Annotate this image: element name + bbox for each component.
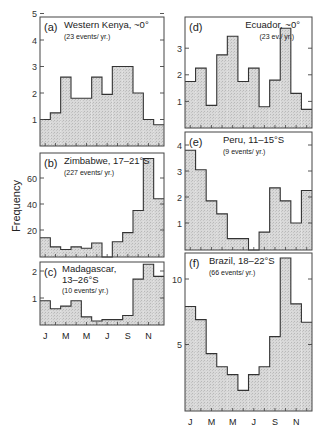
y-tick-label: 2 (32, 89, 37, 99)
month-label: S (272, 417, 278, 427)
bar (280, 28, 291, 128)
y-tick-label: 10 (172, 275, 182, 285)
y-axis-label: Frequency (10, 176, 22, 236)
bar (217, 55, 228, 128)
bar (301, 322, 312, 411)
month-label: J (105, 331, 110, 341)
month-label: J (43, 331, 48, 341)
bar (185, 81, 196, 128)
bar (280, 258, 291, 411)
bar (259, 367, 270, 411)
bar (112, 67, 122, 147)
panel-label: (b) (44, 157, 57, 169)
bar (291, 93, 302, 128)
panel-subtitle: (227 events/ yr.) (64, 169, 114, 177)
month-label: M (62, 331, 70, 341)
bar (280, 201, 291, 250)
bar (249, 375, 260, 411)
bar (227, 36, 238, 128)
bar (206, 354, 217, 411)
y-tick-label: 60 (27, 174, 37, 184)
y-tick-label: 3 (32, 62, 37, 72)
bar (154, 276, 164, 325)
month-label: M (208, 417, 216, 427)
bar (185, 307, 196, 411)
month-label: J (188, 417, 193, 427)
bar (217, 367, 228, 411)
y-tick-label: 5 (177, 340, 182, 350)
y-tick-label: 40 (27, 200, 37, 210)
month-label: M (83, 331, 91, 341)
bar (71, 98, 81, 146)
bar (133, 279, 143, 325)
bar (71, 301, 81, 325)
panel-label: (e) (189, 136, 202, 148)
panel-subtitle: (23 ev./ yr.) (260, 33, 295, 41)
panel-title: Brazil, 18–22°S (209, 255, 275, 266)
bar (81, 98, 91, 146)
y-tick-label: 20 (27, 226, 37, 236)
panel-label: (d) (189, 21, 202, 33)
panel-subtitle: (9 events/ yr.) (223, 148, 265, 156)
month-label: M (229, 417, 237, 427)
y-tick-label: 2 (177, 70, 182, 80)
panel-subtitle: (66 events/ yr.) (209, 269, 255, 277)
panel-f: 510(f)Brazil, 18–22°S(66 events/ yr.)JMM… (172, 253, 312, 427)
y-tick-label: 3 (177, 44, 182, 54)
bar (238, 81, 249, 128)
month-label: J (252, 417, 257, 427)
panel-d: 123(d)Ecuador, ~0°(23 ev./ yr.) (177, 17, 312, 128)
bar (133, 93, 143, 146)
bar (259, 107, 270, 128)
panel-subtitle: (10 events/ yr.) (62, 287, 108, 295)
figure: 12345(a)Western Kenya, ~0°(23 events/ yr… (0, 0, 325, 431)
bar (227, 375, 238, 411)
panel-c: 12(c)Madagascar,13–26°S(10 events/ yr.)J… (32, 262, 164, 341)
y-tick-label: 1 (32, 294, 37, 304)
bar (196, 68, 207, 128)
bar (154, 125, 164, 146)
bar (291, 304, 302, 411)
panel-e: 1234(e)Peru, 11–15°S(9 events/ yr.) (177, 132, 312, 250)
panel-label: (c) (44, 266, 57, 278)
y-tick-label: 5 (32, 9, 37, 19)
bar (154, 199, 164, 257)
panel-title: Western Kenya, ~0° (64, 19, 149, 30)
panel-label: (f) (189, 257, 199, 269)
panel-title: Peru, 11–15°S (223, 134, 284, 145)
bar (61, 77, 71, 146)
bar (50, 113, 60, 146)
bar (92, 77, 102, 146)
month-label: N (293, 417, 300, 427)
y-tick-label: 1 (177, 219, 182, 229)
panel-title: Madagascar, (62, 263, 116, 274)
month-label: N (145, 331, 152, 341)
panel-b: 204060(b)Zimbabwe, 17–21°S(227 events/ y… (27, 153, 164, 257)
bar (238, 390, 249, 411)
panel-subtitle: (23 events/ yr.) (64, 33, 110, 41)
bar (301, 191, 312, 251)
bar (40, 301, 50, 325)
panel-title: Zimbabwe, 17–21°S (64, 155, 150, 166)
bar (185, 150, 196, 250)
panel-title: Ecuador, ~0° (245, 19, 300, 30)
panel-a: 12345(a)Western Kenya, ~0°(23 events/ yr… (32, 9, 164, 146)
bar (143, 264, 153, 325)
bar (102, 94, 112, 146)
bar (40, 120, 50, 147)
panel-title-line2: 13–26°S (62, 274, 99, 285)
y-tick-label: 2 (32, 267, 37, 277)
month-label: S (125, 331, 131, 341)
bar (270, 188, 281, 250)
bar (123, 233, 133, 257)
bar (206, 105, 217, 128)
panel-label: (a) (44, 21, 57, 33)
bar (196, 320, 207, 411)
y-tick-label: 1 (32, 115, 37, 125)
bar (196, 170, 207, 250)
y-tick-label: 1 (177, 97, 182, 107)
bar (123, 67, 133, 147)
bar (206, 201, 217, 250)
bar (133, 211, 143, 258)
bar (270, 337, 281, 411)
